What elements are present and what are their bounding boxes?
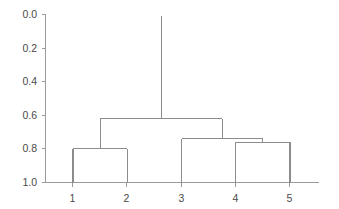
dendrogram-figure: 0.0 0.2 0.4 0.6 0.8 1.0 1 2 3 4 5 bbox=[0, 0, 339, 209]
x-tick-labels: 1 2 3 4 5 bbox=[70, 192, 293, 204]
leaf-label-3: 3 bbox=[179, 192, 185, 204]
y-tick-label-3: 0.6 bbox=[22, 109, 37, 121]
y-tick-label-0: 0.0 bbox=[22, 8, 37, 20]
leaf-label-2: 2 bbox=[124, 192, 130, 204]
y-tick-label-2: 0.4 bbox=[22, 75, 37, 87]
leaf-label-5: 5 bbox=[287, 192, 293, 204]
leaf-label-4: 4 bbox=[233, 192, 239, 204]
dendrogram-plot: 0.0 0.2 0.4 0.6 0.8 1.0 1 2 3 4 5 bbox=[0, 0, 339, 209]
y-tick-marks bbox=[42, 15, 46, 183]
leaf-label-1: 1 bbox=[70, 192, 76, 204]
y-tick-labels: 0.0 0.2 0.4 0.6 0.8 1.0 bbox=[22, 8, 37, 188]
y-tick-label-4: 0.8 bbox=[22, 142, 37, 154]
dendrogram-links bbox=[73, 16, 290, 182]
y-tick-label-5: 1.0 bbox=[22, 176, 37, 188]
y-tick-label-1: 0.2 bbox=[22, 42, 37, 54]
x-tick-marks bbox=[73, 183, 290, 188]
